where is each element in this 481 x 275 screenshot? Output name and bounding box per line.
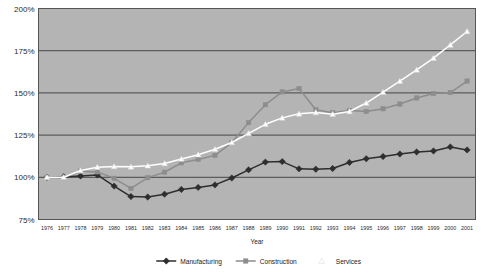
x-axis-tick-label: 1997 <box>394 225 406 231</box>
x-axis-tick-label: 1994 <box>343 225 355 231</box>
line-chart: 75%100%125%150%175%200% 1976197719781979… <box>0 0 481 275</box>
x-axis-tick-label: 1984 <box>175 225 187 231</box>
x-axis-title-label: Year <box>251 238 265 245</box>
data-point-marker <box>381 107 385 111</box>
legend-label: Construction <box>260 258 297 265</box>
x-axis-tick-label: 1990 <box>276 225 288 231</box>
data-point-marker <box>146 175 150 179</box>
legend-label: Manufacturing <box>180 258 222 266</box>
x-axis-tick-label: 1986 <box>209 225 221 231</box>
data-point-marker <box>263 103 267 107</box>
data-point-marker <box>196 157 200 161</box>
x-axis-tick-label: 1976 <box>41 225 53 231</box>
chart-container: 75%100%125%150%175%200% 1976197719781979… <box>0 0 481 275</box>
y-axis-tick-label: 75% <box>18 216 34 225</box>
x-axis-tick-label: 1977 <box>58 225 70 231</box>
x-axis-tick-label: 1991 <box>293 225 305 231</box>
x-axis-title: Year <box>251 238 265 245</box>
x-axis-tick-label: 1987 <box>226 225 238 231</box>
data-point-marker <box>398 102 402 106</box>
x-axis-tick-label: 1989 <box>259 225 271 231</box>
y-axis-tick-label: 125% <box>14 131 34 140</box>
data-point-marker <box>213 153 217 157</box>
legend-item-manufacturing[interactable]: Manufacturing <box>156 258 222 266</box>
x-axis-tick-label: 1988 <box>243 225 255 231</box>
data-point-marker <box>246 120 250 124</box>
y-axis-tick-label: 100% <box>14 173 34 182</box>
data-point-marker <box>448 90 452 94</box>
x-axis-tick-label: 1998 <box>411 225 423 231</box>
y-axis-tick-label: 175% <box>14 47 34 56</box>
x-axis-tick-label: 1981 <box>125 225 137 231</box>
x-axis-tick-label: 1983 <box>159 225 171 231</box>
data-point-marker <box>162 170 166 174</box>
data-point-marker <box>431 91 435 95</box>
data-point-marker <box>297 86 301 90</box>
legend-label: Services <box>336 258 362 265</box>
x-axis-tick-label: 1985 <box>192 225 204 231</box>
data-point-marker <box>364 109 368 113</box>
x-axis-tick-label: 1999 <box>427 225 439 231</box>
data-point-marker <box>280 90 284 94</box>
x-axis-tick-label: 2001 <box>461 225 473 231</box>
x-axis-tick-label: 1992 <box>310 225 322 231</box>
data-point-marker <box>129 186 133 190</box>
legend-marker <box>244 259 248 263</box>
x-axis-tick-label: 2000 <box>444 225 456 231</box>
data-point-marker <box>465 79 469 83</box>
x-axis-tick-label: 1982 <box>142 225 154 231</box>
x-axis-tick-label: 1996 <box>377 225 389 231</box>
x-axis-tick-label: 1993 <box>327 225 339 231</box>
y-axis-tick-label: 200% <box>14 5 34 14</box>
y-axis-tick-label: 150% <box>14 89 34 98</box>
data-point-marker <box>95 170 99 174</box>
data-point-marker <box>112 176 116 180</box>
data-point-marker <box>414 96 418 100</box>
x-axis-tick-label: 1995 <box>360 225 372 231</box>
x-axis-tick-label: 1979 <box>91 225 103 231</box>
x-axis-tick-label: 1978 <box>75 225 87 231</box>
x-axis-tick-label: 1980 <box>108 225 120 231</box>
